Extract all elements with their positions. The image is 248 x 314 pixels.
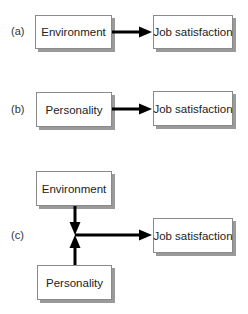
arrow-a: [112, 27, 152, 38]
arrow-c-to-job-satisfaction: [75, 230, 152, 241]
arrow-b: [112, 104, 152, 115]
arrow-c-personality-up: [70, 235, 81, 265]
arrow-c-environment-down: [70, 206, 81, 235]
arrows-layer: [0, 0, 248, 314]
